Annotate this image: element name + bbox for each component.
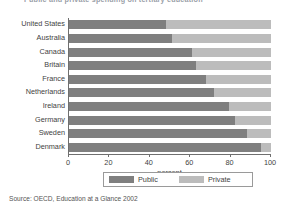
y-axis-tick-label: Ireland (43, 101, 65, 110)
bar-row: Netherlands (69, 88, 271, 97)
bar-row: Germany (69, 116, 271, 125)
bar-row: United States (69, 20, 271, 29)
bar-segment-public (69, 34, 172, 43)
x-axis-tick-mark (230, 154, 231, 157)
bar-segment-public (69, 48, 192, 57)
bar-segment-private (192, 48, 271, 57)
x-axis-tick-label: 100 (264, 158, 276, 167)
bar-segment-private (261, 143, 271, 152)
y-axis-tick-label: Germany (35, 115, 65, 124)
bar-segment-private (247, 129, 271, 138)
bar-segment-public (69, 88, 214, 97)
bar-row: France (69, 75, 271, 84)
bar-segment-public (69, 129, 247, 138)
x-axis-tick-mark (270, 154, 271, 157)
y-axis-tick-label: Australia (37, 33, 65, 42)
bar-row: Australia (69, 34, 271, 43)
bar-segment-public (69, 20, 166, 29)
legend-item-private[interactable]: Private (174, 173, 231, 186)
x-axis-tick-mark (108, 154, 109, 157)
bar-row: Britain (69, 61, 271, 70)
y-axis-tick-label: Canada (39, 47, 65, 56)
bar-segment-public (69, 143, 261, 152)
x-axis-tick-label: 0 (66, 158, 70, 167)
bar-segment-public (69, 61, 196, 70)
x-axis-tick-label: 20 (104, 158, 112, 167)
legend-label: Private (208, 175, 231, 184)
y-axis-tick-label: United States (21, 19, 65, 28)
bar-segment-private (206, 75, 271, 84)
bar-segment-public (69, 116, 235, 125)
x-axis-tick-mark (149, 154, 150, 157)
x-axis-tick-label: 40 (145, 158, 153, 167)
bar-segment-private (214, 88, 271, 97)
bar-row: Denmark (69, 143, 271, 152)
legend-swatch-private (179, 176, 204, 183)
y-axis-tick-label: Britain (44, 60, 65, 69)
bar-segment-private (229, 102, 271, 111)
chart-figure: Public and private spending on tertiary … (0, 0, 298, 216)
bar-segment-private (235, 116, 271, 125)
legend-item-public[interactable]: Public (104, 173, 158, 186)
plot-area: United StatesAustraliaCanadaBritainFranc… (68, 18, 271, 154)
y-axis-tick-label: Denmark (35, 142, 65, 151)
source-note: Source: OECD, Education at a Glance 2002 (9, 195, 138, 202)
x-axis-tick-label: 80 (226, 158, 234, 167)
bar-segment-public (69, 102, 229, 111)
legend-label: Public (138, 175, 158, 184)
y-axis-tick-label: Sweden (39, 128, 65, 137)
x-axis-tick-label: 60 (185, 158, 193, 167)
x-axis-line (68, 154, 271, 155)
chart-title: Public and private spending on tertiary … (24, 0, 274, 5)
bar-row: Ireland (69, 102, 271, 111)
bar-row: Canada (69, 48, 271, 57)
x-axis-tick-mark (189, 154, 190, 157)
y-axis-tick-label: Netherlands (26, 87, 65, 96)
bar-row: Sweden (69, 129, 271, 138)
y-axis-tick-label: France (42, 74, 65, 83)
bar-segment-private (172, 34, 271, 43)
bar-segment-private (196, 61, 271, 70)
chart-legend: PublicPrivate (103, 172, 253, 187)
bar-segment-private (166, 20, 271, 29)
x-axis-tick-mark (68, 154, 69, 157)
legend-swatch-public (109, 176, 134, 183)
bar-segment-public (69, 75, 206, 84)
